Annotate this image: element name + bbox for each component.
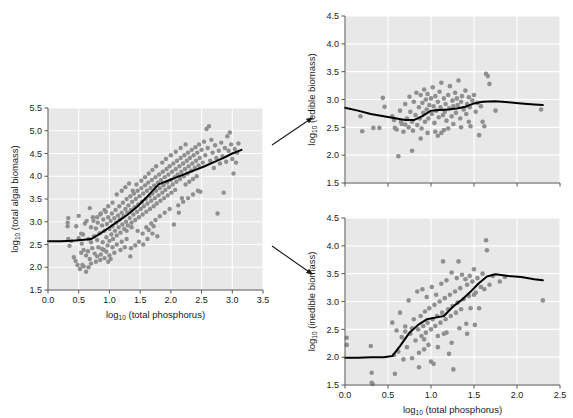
data-point — [446, 126, 451, 131]
data-point — [116, 225, 120, 229]
data-point — [146, 180, 150, 184]
data-point — [413, 113, 418, 118]
data-point — [418, 314, 423, 319]
data-point — [439, 81, 444, 86]
data-point — [416, 327, 421, 332]
data-point — [124, 237, 128, 241]
data-point — [406, 298, 411, 303]
data-point — [455, 276, 460, 281]
data-point — [424, 295, 429, 300]
data-point — [178, 146, 182, 150]
edible-panel-y-axis-label: log10 (edible biomass) — [306, 53, 318, 145]
data-point — [394, 328, 399, 333]
data-point — [436, 115, 441, 120]
data-point — [177, 164, 181, 168]
data-point — [141, 242, 145, 246]
data-point — [95, 238, 99, 242]
data-point — [434, 293, 439, 298]
data-point — [153, 175, 157, 179]
y-tick-label: 2.0 — [326, 150, 339, 160]
y-tick-label: 3.5 — [326, 67, 339, 77]
data-point — [460, 94, 465, 99]
data-point — [127, 181, 131, 185]
data-point — [183, 167, 187, 171]
x-tick-label: 2.0 — [511, 390, 524, 400]
data-point — [170, 170, 174, 174]
x-tick-label: 1.0 — [103, 295, 116, 305]
x-tick-label: 0.0 — [42, 295, 55, 305]
data-point — [209, 138, 213, 142]
y-tick-label: 2.5 — [29, 240, 42, 250]
data-point — [85, 219, 89, 223]
data-point — [108, 219, 112, 223]
data-point — [465, 283, 470, 288]
data-point — [479, 104, 484, 109]
data-point — [463, 277, 468, 282]
x-tick-label: 1.0 — [425, 390, 438, 400]
data-point — [230, 157, 234, 161]
data-point — [145, 237, 149, 241]
data-point — [149, 199, 153, 203]
data-point — [124, 229, 128, 233]
data-point — [163, 210, 167, 214]
figure-svg: 1.52.02.53.03.54.04.55.05.50.00.51.01.52… — [0, 0, 573, 418]
data-point — [116, 213, 120, 217]
data-point — [415, 289, 420, 294]
data-point — [410, 148, 415, 153]
data-point — [145, 189, 149, 193]
data-point — [436, 99, 441, 104]
data-point — [131, 212, 135, 216]
data-point — [90, 246, 94, 250]
data-point — [371, 126, 376, 131]
data-point — [134, 197, 138, 201]
data-point — [458, 116, 463, 121]
data-point — [164, 157, 168, 161]
data-point — [115, 242, 119, 246]
data-point — [382, 104, 387, 109]
data-point — [110, 211, 114, 215]
data-point — [426, 116, 431, 121]
figure-container: 1.52.02.53.03.54.04.55.05.50.00.51.01.52… — [0, 0, 573, 418]
data-point — [78, 267, 82, 271]
data-point — [410, 356, 415, 361]
data-point — [423, 119, 428, 124]
data-point — [128, 216, 132, 220]
data-point — [183, 182, 187, 186]
data-point — [213, 143, 217, 147]
x-tick-label: 2.5 — [554, 390, 567, 400]
data-point — [182, 153, 186, 157]
data-point — [403, 324, 408, 329]
data-point — [196, 163, 200, 167]
data-point — [420, 101, 425, 106]
data-point — [393, 372, 398, 377]
data-point — [120, 240, 124, 244]
data-point — [166, 172, 170, 176]
data-point — [199, 148, 203, 152]
data-point — [179, 170, 183, 174]
data-point — [191, 192, 195, 196]
data-point — [193, 145, 197, 149]
y-tick-label: 3.0 — [29, 217, 42, 227]
data-point — [155, 201, 159, 205]
data-point — [444, 118, 449, 123]
data-point — [210, 150, 214, 154]
data-point — [417, 105, 422, 110]
data-point — [135, 229, 139, 233]
data-point — [77, 214, 81, 218]
data-point — [433, 129, 438, 134]
data-point — [172, 222, 176, 226]
data-point — [236, 141, 240, 145]
data-point — [191, 153, 195, 157]
data-point — [186, 196, 190, 200]
data-point — [148, 186, 152, 190]
data-point — [120, 222, 124, 226]
data-point — [157, 172, 161, 176]
data-point — [139, 179, 143, 183]
data-point — [484, 238, 489, 243]
data-point — [477, 306, 482, 311]
data-point — [423, 309, 428, 314]
y-tick-label: 3.5 — [29, 194, 42, 204]
data-point — [212, 166, 216, 170]
data-point — [128, 254, 132, 258]
data-point — [381, 96, 386, 101]
